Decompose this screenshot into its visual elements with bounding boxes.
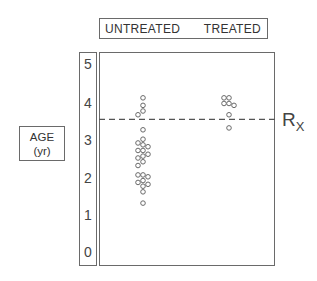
y-axis-label: AGE (yr): [19, 126, 65, 161]
y-tick-5: 5: [80, 57, 96, 71]
y-tick-2: 2: [80, 171, 96, 185]
threshold-label: RX: [282, 109, 304, 134]
y-tick-3: 3: [80, 133, 96, 147]
y-tick-1: 1: [80, 208, 96, 222]
y-axis: 5 4 3 2 1 0: [79, 52, 97, 266]
threshold-label-main: R: [282, 109, 296, 130]
threshold-label-sub: X: [296, 119, 305, 134]
y-axis-label-title: AGE: [20, 130, 64, 144]
threshold-line: [99, 0, 279, 281]
y-tick-4: 4: [80, 96, 96, 110]
y-axis-label-unit: (yr): [20, 144, 64, 158]
y-tick-0: 0: [80, 245, 96, 259]
